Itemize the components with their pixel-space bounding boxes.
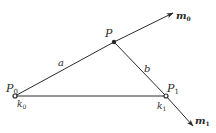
label-p0: P0 <box>5 82 18 96</box>
label-b: b <box>144 63 150 74</box>
vector-m1-arrow <box>166 96 193 126</box>
diagram-canvas: P0 k0 P a b P1 k1 m0 m1 <box>0 0 216 133</box>
label-p1: P1 <box>166 82 179 96</box>
label-a: a <box>58 57 64 68</box>
vector-m0-arrow <box>114 13 173 42</box>
label-m0: m0 <box>176 10 191 22</box>
label-k1: k1 <box>157 101 166 112</box>
point-p-marker <box>112 40 116 44</box>
segment-a <box>15 42 114 96</box>
label-k0: k0 <box>17 99 26 110</box>
label-p: P <box>104 27 113 40</box>
segment-b <box>114 42 166 96</box>
label-m1: m1 <box>195 115 210 127</box>
